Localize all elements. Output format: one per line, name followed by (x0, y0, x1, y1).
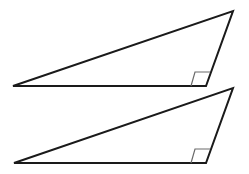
triangles-figure (0, 0, 249, 174)
triangle-bottom-outline (14, 88, 233, 163)
triangle-top-outline (13, 11, 233, 86)
triangle-top (13, 11, 233, 86)
triangle-bottom (14, 88, 233, 163)
diagram-canvas (0, 0, 249, 174)
